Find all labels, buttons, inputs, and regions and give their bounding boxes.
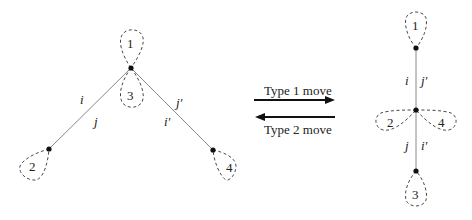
loop-4	[416, 110, 456, 130]
type-1-move-label: Type 1 move	[264, 83, 332, 98]
loop-2	[376, 110, 416, 130]
diagram: 1 3 2 4 i j j′ i′ Type 1 move Type 2 mov…	[0, 0, 472, 220]
loop-4	[213, 150, 236, 180]
node-middle	[413, 107, 418, 112]
edge-left	[49, 68, 131, 149]
edge-label-j: j	[92, 114, 98, 129]
backward-arrowhead-icon	[255, 113, 265, 121]
moves: Type 1 move Type 2 move	[254, 83, 335, 137]
edge-label-j: j	[403, 138, 409, 153]
node-4	[210, 147, 215, 152]
edge-label-iprime: i′	[164, 114, 171, 129]
node-top	[413, 45, 418, 50]
node-bottom	[413, 168, 418, 173]
edge-right	[131, 68, 213, 150]
node-2	[46, 146, 51, 151]
loop-label-2: 2	[29, 159, 36, 174]
edge-label-iprime: i′	[421, 138, 428, 153]
node-center	[128, 65, 133, 70]
left-graph: 1 3 2 4 i j j′ i′	[20, 30, 236, 180]
edge-label-jprime: j′	[419, 73, 428, 88]
loop-label-2: 2	[387, 115, 394, 130]
edge-label-i: i	[80, 92, 84, 107]
loop-label-4: 4	[438, 115, 445, 130]
edge-label-i: i	[405, 73, 409, 88]
right-graph: 1 2 4 3 i j′ j i′	[376, 12, 456, 206]
type-2-move-label: Type 2 move	[264, 122, 332, 137]
loop-label-4: 4	[226, 160, 233, 175]
loop-label-1: 1	[127, 36, 134, 51]
loop-label-3: 3	[127, 88, 134, 103]
edge-label-jprime: j′	[174, 95, 183, 110]
loop-label-1: 1	[412, 18, 419, 33]
loop-label-3: 3	[412, 187, 419, 202]
